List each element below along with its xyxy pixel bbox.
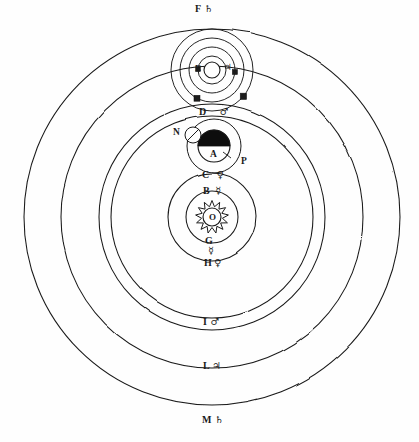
earth-label: A [210, 150, 217, 160]
jupiter-letter-label: E [195, 64, 202, 73]
saturn-symbol-icon-bottom: ♄ [215, 414, 224, 425]
mercury-symbol-icon-bottom: ☿ [208, 245, 214, 256]
ring-label-earth-top: D♂ [199, 107, 229, 117]
ring-label-saturn-bottom: M♄ [202, 415, 224, 425]
sun-center-label: O [209, 213, 217, 222]
moon-glyph [185, 127, 201, 143]
lunar-orbit-label: P [241, 157, 247, 167]
mercury-symbol-bottom: ☿ [208, 246, 214, 256]
ring-label-venus-bottom: H♀ [204, 258, 222, 268]
earth-night-side [198, 130, 230, 146]
jupiter-moon-marker [232, 69, 237, 74]
jupiter-moon-marker [194, 95, 200, 101]
jupiter-symbol-icon: ♃ [224, 62, 232, 72]
earth-moon-system [185, 119, 241, 173]
ring-label-jupiter-bottom: L♃ [203, 361, 221, 371]
mercury-symbol-icon-top: ☿ [215, 185, 221, 196]
heliocentric-diagram: F♄ D♂ C♀ B☿ G ☿ H♀ I♂ L♃ M♄ O A N P E ♃ [0, 0, 419, 442]
moon-label: N [173, 128, 180, 138]
ring-label-mars-bottom: I♂ [203, 317, 220, 327]
ring-label-saturn-top: F♄ [195, 4, 214, 14]
mars-symbol-icon-top: ♂ [220, 106, 229, 117]
jupiter-symbol-icon-bottom: ♃ [212, 360, 221, 371]
ring-label-mercury-top: B☿ [203, 186, 222, 196]
jupiter-moon-marker [240, 93, 246, 99]
jupiter-symbol-label: ♃ [224, 63, 232, 72]
jupiter-planet-disc [204, 62, 220, 78]
venus-symbol-icon-bottom: ♀ [214, 257, 222, 268]
jupiter-moon-system [171, 29, 253, 111]
saturn-symbol-icon: ♄ [205, 3, 214, 14]
ring-label-venus-top: C♀ [202, 170, 224, 180]
mars-symbol-icon-bottom: ♂ [210, 316, 219, 327]
venus-symbol-icon-top: ♀ [217, 169, 225, 180]
